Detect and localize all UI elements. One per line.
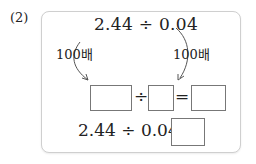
answer-box-quotient[interactable]: [191, 85, 226, 111]
answer-box-divisor[interactable]: [148, 85, 174, 111]
divide-sign: ÷: [134, 86, 148, 106]
right-multiplier-label: 100배: [173, 44, 210, 63]
answer-box-final[interactable]: [171, 118, 205, 146]
equals-sign: =: [175, 86, 189, 106]
answer-box-dividend[interactable]: [90, 85, 132, 111]
top-expression: 2.44 ÷ 0.04: [94, 14, 198, 34]
left-multiplier-label: 100배: [56, 44, 93, 63]
